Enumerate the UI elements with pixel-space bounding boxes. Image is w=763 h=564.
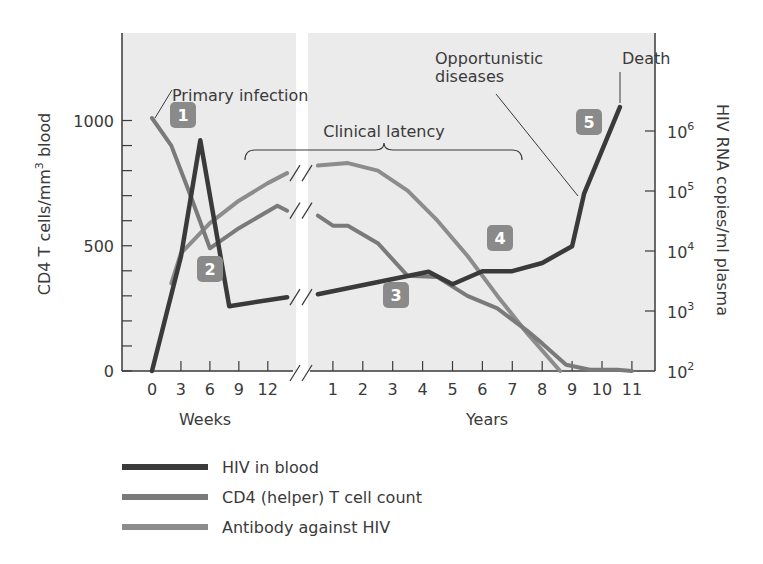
right-y-axis: 102103104105106HIV RNA copies/ml plasma (645, 33, 732, 382)
x-axis: 0369121234567891011WeeksYears (122, 361, 655, 429)
x-tick-label: 2 (358, 380, 368, 399)
legend-swatch-hiv (122, 464, 208, 470)
legend-swatch-antibody (122, 524, 208, 530)
left-tick-label: 1000 (73, 112, 114, 131)
stage-badge-label: 3 (390, 286, 401, 305)
annotation-death: Death (622, 49, 670, 68)
legend: HIV in blood CD4 (helper) T cell count A… (122, 452, 422, 542)
stage-badge-label: 4 (494, 229, 505, 248)
annotation-primary-infection: Primary infection (172, 86, 308, 105)
legend-label: Antibody against HIV (222, 518, 390, 537)
legend-swatch-cd4 (122, 494, 208, 500)
stage-badge-label: 2 (204, 260, 215, 279)
left-tick-label: 500 (83, 237, 114, 256)
x-tick-label: 8 (537, 380, 547, 399)
right-tick-label: 104 (667, 240, 694, 262)
axis-break-band (296, 33, 308, 371)
left-axis-title: CD4 T cells/mm3 blood (33, 113, 54, 295)
x-tick-label: 4 (418, 380, 428, 399)
x-tick-label: 3 (176, 380, 186, 399)
left-y-axis: 05001000CD4 T cells/mm3 blood (33, 33, 132, 381)
x-tick-label: 12 (258, 380, 278, 399)
x-segment-label-years: Years (465, 410, 508, 429)
x-segment-label-weeks: Weeks (179, 410, 231, 429)
x-tick-label: 6 (205, 380, 215, 399)
plot-area (122, 33, 655, 371)
x-tick-label: 7 (507, 380, 517, 399)
legend-item-antibody: Antibody against HIV (122, 512, 422, 542)
right-tick-label: 105 (667, 180, 694, 202)
x-tick-label: 0 (147, 380, 157, 399)
legend-item-hiv: HIV in blood (122, 452, 422, 482)
left-tick-label: 0 (104, 362, 114, 381)
x-tick-label: 11 (622, 380, 642, 399)
right-tick-label: 103 (667, 300, 694, 322)
x-tick-label: 9 (234, 380, 244, 399)
right-tick-label: 106 (667, 120, 694, 142)
legend-label: HIV in blood (222, 458, 319, 477)
x-tick-label: 5 (447, 380, 457, 399)
right-axis-title: HIV RNA copies/ml plasma (713, 104, 732, 316)
right-tick-label: 102 (667, 360, 694, 382)
x-tick-label: 9 (567, 380, 577, 399)
x-tick-label: 3 (388, 380, 398, 399)
legend-item-cd4: CD4 (helper) T cell count (122, 482, 422, 512)
x-tick-label: 1 (328, 380, 338, 399)
stage-badge-label: 1 (177, 106, 188, 125)
annotation-clinical-latency: Clinical latency (323, 122, 445, 141)
stage-badge-label: 5 (583, 113, 594, 132)
legend-label: CD4 (helper) T cell count (222, 488, 422, 507)
x-tick-label: 6 (477, 380, 487, 399)
x-tick-label: 10 (592, 380, 612, 399)
